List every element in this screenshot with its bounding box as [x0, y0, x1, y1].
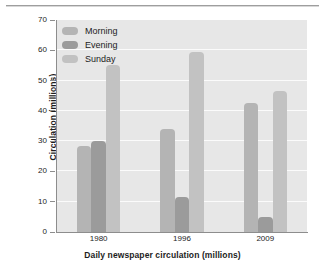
y-tick-label: 40 [38, 106, 47, 116]
y-tick-label: 20 [38, 166, 47, 176]
y-tick-label: 0 [43, 227, 47, 237]
gridline-40 [57, 110, 307, 111]
x-axis-title: Daily newspaper circulation (millions) [0, 250, 325, 260]
y-tick-0: 0 [0, 227, 56, 237]
bar-sunday-1980 [106, 65, 121, 232]
legend-label: Evening [85, 40, 118, 50]
bar-evening-1980 [91, 141, 106, 232]
y-tick-10: 10 [0, 197, 56, 207]
bar-evening-1996 [175, 197, 190, 232]
legend-label: Sunday [85, 54, 116, 64]
legend-item-sunday: Sunday [62, 52, 118, 65]
legend-label: Morning [85, 26, 118, 36]
chart-figure: Circulation (millions) 010203040506070 1… [0, 0, 325, 273]
y-tick-label: 50 [38, 76, 47, 86]
legend-swatch-morning-icon [62, 27, 78, 35]
y-tick-mark [50, 50, 55, 51]
x-tick-label-1980: 1980 [69, 234, 129, 243]
y-tick-label: 60 [38, 45, 47, 55]
chart-legend: MorningEveningSunday [62, 24, 118, 66]
y-tick-70: 70 [0, 15, 56, 25]
top-divider-rule-shadow [6, 6, 319, 7]
y-tick-40: 40 [0, 106, 56, 116]
legend-swatch-sunday-icon [62, 55, 78, 63]
legend-swatch-evening-icon [62, 41, 78, 49]
y-tick-mark [50, 80, 55, 81]
bar-sunday-1996 [189, 52, 204, 232]
y-tick-30: 30 [0, 136, 56, 146]
bar-morning-1996 [160, 129, 175, 232]
x-axis-line [56, 232, 308, 233]
bar-morning-1980 [77, 146, 92, 232]
x-tick-label-2009: 2009 [235, 234, 295, 243]
y-tick-mark [50, 171, 55, 172]
y-tick-60: 60 [0, 45, 56, 55]
legend-item-evening: Evening [62, 38, 118, 51]
gridline-50 [57, 80, 307, 81]
y-tick-mark [50, 232, 55, 233]
y-tick-mark [50, 20, 55, 21]
bar-morning-2009 [244, 103, 259, 232]
y-tick-50: 50 [0, 76, 56, 86]
y-tick-mark [50, 141, 55, 142]
x-tick-label-1996: 1996 [152, 234, 212, 243]
y-tick-mark [50, 201, 55, 202]
bar-evening-2009 [258, 217, 273, 232]
y-tick-mark [50, 110, 55, 111]
y-tick-20: 20 [0, 166, 56, 176]
y-axis-line [56, 20, 57, 233]
y-tick-label: 70 [38, 15, 47, 25]
y-tick-label: 10 [38, 197, 47, 207]
legend-item-morning: Morning [62, 24, 118, 37]
bar-sunday-2009 [273, 91, 288, 232]
y-tick-label: 30 [38, 136, 47, 146]
